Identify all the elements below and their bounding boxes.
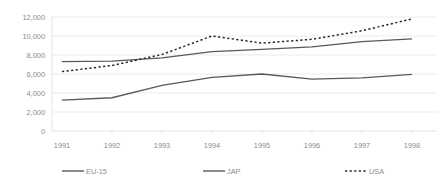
legend-label-usa[interactable]: USA (369, 167, 384, 176)
series-line-eu-15 (62, 39, 412, 62)
x-tick-label-1998: 1998 (404, 141, 420, 150)
x-axis-tick-labels: 1991 1992 1993 1994 1995 1996 1997 1998 (54, 141, 420, 150)
series-line-usa (62, 19, 412, 72)
legend-label-jap[interactable]: JAP (227, 167, 241, 176)
y-tick-label-2000: 2,000 (27, 108, 46, 117)
y-tick-label-8000: 8,000 (27, 51, 46, 60)
y-axis-tick-labels: 12,000 10,000 8,000 6,000 4,000 2,000 0 (22, 13, 45, 136)
x-tick-label-1997: 1997 (354, 141, 370, 150)
x-tick-label-1995: 1995 (254, 141, 270, 150)
y-tick-label-10000: 10,000 (22, 32, 45, 41)
y-tick-label-12000: 12,000 (22, 13, 45, 22)
line-chart: 12,000 10,000 8,000 6,000 4,000 2,000 0 … (0, 0, 446, 184)
series-group (62, 19, 412, 100)
x-tick-label-1992: 1992 (104, 141, 120, 150)
chart-canvas: 12,000 10,000 8,000 6,000 4,000 2,000 0 … (0, 0, 446, 184)
y-tick-label-6000: 6,000 (27, 70, 46, 79)
x-tick-label-1996: 1996 (304, 141, 320, 150)
legend: EU-15 JAP USA (62, 167, 384, 176)
legend-label-eu-15[interactable]: EU-15 (86, 167, 107, 176)
x-tick-label-1994: 1994 (204, 141, 220, 150)
series-line-jap (62, 74, 412, 100)
x-tick-label-1991: 1991 (54, 141, 70, 150)
x-tick-label-1993: 1993 (154, 141, 170, 150)
y-tick-label-4000: 4,000 (27, 89, 46, 98)
y-tick-label-0: 0 (41, 127, 45, 136)
